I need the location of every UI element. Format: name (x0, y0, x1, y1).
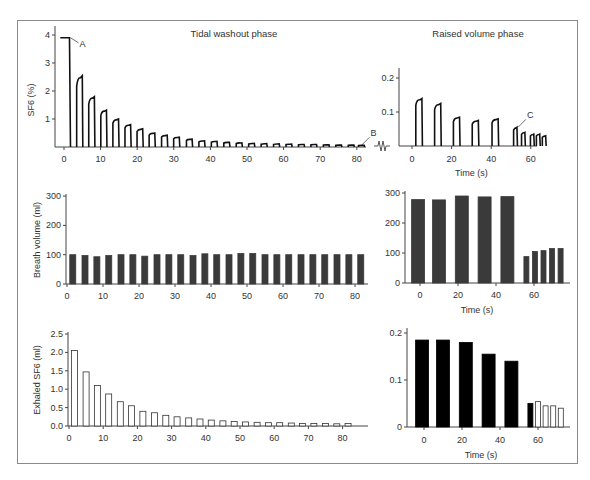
x-tick-label: 10 (96, 154, 106, 164)
x-tick-label: 0 (61, 154, 66, 164)
exhaled-sf6-tidal-chart: 0.00.51.01.52.02.501020304050607080Exhal… (32, 329, 368, 443)
bar (166, 255, 172, 284)
y-tick-label: 100 (385, 248, 400, 258)
bar (94, 386, 100, 426)
bar (231, 422, 237, 426)
bar (130, 255, 136, 284)
y-tick-label: 100 (46, 250, 61, 260)
x-tick-label: 20 (453, 290, 463, 300)
y-tick-label: 3 (45, 58, 50, 68)
figure-canvas: Tidal washout phase Raised volume phase … (0, 0, 590, 480)
bar (71, 351, 77, 426)
axis-break-symbol (374, 141, 390, 151)
y-tick-label: 300 (385, 188, 400, 198)
y-tick-label: 0.5 (50, 403, 63, 413)
bar (242, 422, 248, 426)
x-tick-label: 40 (491, 290, 501, 300)
y-tick-label: 2.5 (50, 329, 63, 339)
bar (358, 255, 364, 284)
bar (202, 254, 208, 284)
y-tick-label: 0.2 (381, 73, 394, 83)
x-tick-label: 40 (205, 154, 215, 164)
bar (277, 423, 283, 426)
x-tick-label: 70 (315, 154, 325, 164)
bar (310, 255, 316, 284)
bar (152, 413, 158, 426)
x-tick-label: 50 (235, 433, 245, 443)
bar (334, 424, 340, 426)
bar (345, 423, 351, 426)
x-tick-label: 30 (169, 154, 179, 164)
bar (118, 255, 124, 284)
bar (250, 254, 256, 284)
x-tick-label: 70 (303, 433, 313, 443)
bar (455, 196, 468, 283)
bar (226, 255, 232, 284)
exhaled-sf6-raised-chart: 00.10.20204060Time (s) (389, 328, 570, 460)
y-tick-label: 2 (45, 86, 50, 96)
y-tick-label: 0 (56, 279, 61, 289)
x-tick-label: 20 (457, 435, 467, 445)
bar (190, 256, 196, 284)
x-tick-label: 60 (269, 433, 279, 443)
bar (524, 257, 529, 283)
x-tick-label: 50 (242, 154, 252, 164)
bar (334, 255, 340, 284)
bar (286, 255, 292, 284)
bar (94, 257, 100, 284)
x-tick-label: 40 (495, 435, 505, 445)
x-tick-label: 60 (279, 154, 289, 164)
y-tick-label: 0.0 (50, 421, 63, 431)
bar (532, 252, 537, 284)
bar (262, 255, 268, 284)
bar (208, 420, 214, 426)
bar (174, 417, 180, 426)
x-tick-label: 80 (338, 433, 348, 443)
bar (220, 421, 226, 426)
x-tick-label: 50 (242, 291, 252, 301)
x-tick-label: 0 (409, 154, 414, 164)
bar (117, 402, 123, 426)
y-tick-label: 4 (45, 30, 50, 40)
tidal-washout-title: Tidal washout phase (191, 28, 278, 39)
x-tick-label: 40 (486, 154, 496, 164)
annotation-leader (518, 119, 526, 127)
bar (478, 197, 491, 283)
bar (214, 255, 220, 284)
y-tick-label: 0.2 (389, 328, 402, 338)
bar (528, 404, 533, 428)
bar (298, 255, 304, 284)
bar (82, 256, 88, 284)
annotation-label-c: C (527, 110, 534, 120)
x-tick-label: 40 (206, 291, 216, 301)
breath-volume-tidal-chart: 010020030001020304050607080Breath volume… (32, 191, 368, 301)
breath-volume-raised-chart: 01002003000204060Time (s) (385, 188, 570, 315)
bar (536, 402, 541, 427)
annotation-label-b: B (370, 128, 376, 138)
bar (412, 200, 425, 283)
y-tick-label: 1.0 (50, 384, 63, 394)
y-axis-label: Breath volume (ml) (32, 202, 42, 278)
sf6-trace (416, 98, 546, 146)
y-tick-label: 0 (397, 422, 402, 432)
raised-volume-title: Raised volume phase (432, 28, 523, 39)
bar (558, 249, 563, 284)
bar (186, 418, 192, 426)
bar (83, 372, 89, 426)
bar (70, 255, 76, 284)
bar (550, 249, 555, 284)
x-tick-label: 20 (132, 154, 142, 164)
y-tick-label: 0 (395, 278, 400, 288)
bar (300, 423, 306, 426)
y-tick-label: 0.1 (381, 107, 394, 117)
bar (129, 406, 135, 426)
y-tick-label: 1 (45, 114, 50, 124)
bar (154, 255, 160, 284)
bar (541, 251, 546, 283)
x-tick-label: 10 (98, 433, 108, 443)
x-tick-label: 60 (529, 290, 539, 300)
bar (543, 406, 548, 427)
y-tick-label: 0.1 (389, 375, 402, 385)
axis-break-zigzag (374, 141, 390, 151)
bar (197, 419, 203, 426)
